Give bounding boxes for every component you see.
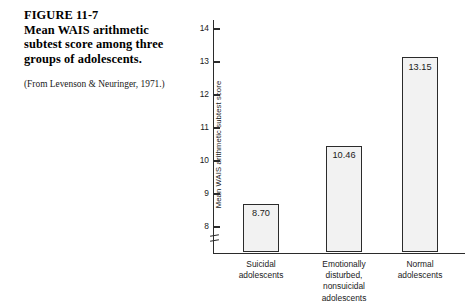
y-tick: [214, 127, 220, 128]
y-axis-label: Mean WAIS arithmetic subtest score: [214, 50, 223, 240]
category-label: Normaladolescents: [372, 259, 467, 282]
y-tick-label: 8: [191, 221, 209, 231]
y-tick: [214, 226, 220, 227]
y-tick-label: 9: [191, 188, 209, 198]
bar[interactable]: [402, 57, 438, 252]
y-tick-label: 10: [191, 155, 209, 165]
y-tick-label: 13: [191, 56, 209, 66]
y-tick: [214, 94, 220, 95]
bar-value-label: 8.70: [233, 208, 289, 218]
y-tick: [214, 193, 220, 194]
category-label-line: Normal: [372, 259, 467, 270]
x-axis-line: [213, 253, 465, 254]
category-label-line: adolescents: [372, 270, 467, 281]
y-tick-label: 12: [191, 89, 209, 99]
bar-chart: Mean WAIS arithmetic subtest score 89101…: [0, 0, 467, 307]
y-axis-line: [213, 20, 214, 253]
category-label: Suicidaladolescents: [213, 259, 309, 282]
y-tick: [214, 61, 220, 62]
y-axis-label-wrap: Mean WAIS arithmetic subtest score: [176, 0, 190, 260]
y-tick: [214, 28, 220, 29]
category-label-line: adolescents: [296, 293, 392, 304]
category-label-line: adolescents: [213, 270, 309, 281]
figure-page: FIGURE 11-7 Mean WAIS arithmetic subtest…: [0, 0, 467, 307]
bar-value-label: 13.15: [392, 62, 448, 72]
y-tick-label: 14: [191, 23, 209, 33]
y-tick-label: 11: [191, 122, 209, 132]
y-tick: [214, 160, 220, 161]
bar[interactable]: [326, 146, 362, 253]
category-label-line: Suicidal: [213, 259, 309, 270]
bar-value-label: 10.46: [316, 150, 372, 160]
category-label-line: nonsuicidal: [296, 281, 392, 292]
